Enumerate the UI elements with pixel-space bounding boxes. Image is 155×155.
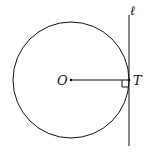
diagram-canvas: O T ℓ (0, 0, 155, 155)
label-line-l: ℓ (130, 3, 136, 18)
label-center-o: O (57, 73, 68, 88)
right-angle-marker (122, 80, 129, 87)
label-tangent-point-t: T (133, 73, 143, 88)
tangent-diagram: O T ℓ (0, 0, 155, 155)
center-point (70, 79, 73, 82)
tangent-point (128, 79, 131, 82)
